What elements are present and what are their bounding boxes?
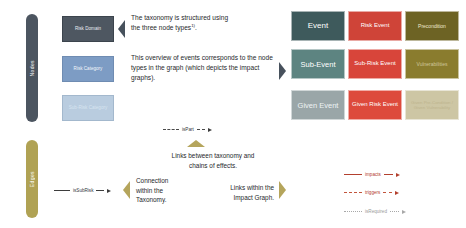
edge-sample-is-part: isPart	[163, 127, 212, 132]
node-given-precondition-label: Given Pre-Condition / Given Vulnerabilit…	[408, 100, 456, 111]
caption-links-impact-line2: Impact Graph.	[234, 194, 275, 201]
chevron-up-gold-icon	[187, 140, 205, 147]
caption-links-between-line2: chains of effects.	[189, 162, 237, 169]
caption-links-between-line1: Links between taxonomy and	[172, 152, 255, 159]
node-risk-event[interactable]: Risk Event	[348, 11, 402, 41]
edge-is-part-line-left	[163, 129, 179, 130]
node-vulnerabilities[interactable]: Vulnerabilities	[405, 49, 459, 79]
caption-links-between-taxonomy: Links between taxonomy and chains of eff…	[128, 151, 298, 170]
legend-row-impacts: impacts	[344, 172, 400, 177]
legend-impacts-label: impacts	[365, 172, 381, 177]
chevron-left-to-taxonomy-icon	[118, 20, 125, 38]
node-precondition-label: Precondition	[418, 23, 446, 29]
node-risk-event-label: Risk Event	[361, 22, 390, 29]
annotation-paragraph-1-line2: the three node types	[131, 24, 191, 31]
edge-is-part-line-right	[197, 129, 205, 130]
edge-is-sub-risk-line-left	[54, 190, 70, 191]
rail-edges-label: Edges	[29, 171, 35, 187]
node-risk-domain-label: Risk Domain	[75, 26, 101, 32]
diagram-canvas: Nodes Edges Risk Domain Risk Category Su…	[0, 0, 466, 228]
node-sub-event-label: Sub-Event	[300, 60, 335, 69]
legend-impacts-arrowhead-icon	[396, 173, 400, 177]
annotation-paragraph-1: The taxonomy is structured using the thr…	[131, 13, 281, 34]
node-sub-risk-category[interactable]: Sub-Risk Category	[62, 95, 114, 121]
caption-connection-line1: Connection	[136, 177, 168, 184]
caption-connection-line3: Taxonomy.	[136, 196, 166, 203]
chevron-right-gold-icon	[279, 181, 286, 199]
node-given-event-label: Given Event	[298, 101, 339, 110]
node-event-label: Event	[308, 21, 328, 31]
node-given-risk-event[interactable]: Given Risk Event	[348, 90, 402, 120]
rail-edges: Edges	[26, 140, 38, 218]
legend-triggers-line-left	[344, 192, 362, 193]
annotation-paragraph-1-line1: The taxonomy is structured using	[131, 14, 228, 21]
legend-is-required-line-left	[344, 211, 362, 212]
caption-links-impact-line1: Links within the	[230, 184, 274, 191]
annotation-paragraph-2: This overview of events corresponds to t…	[131, 53, 275, 84]
legend-is-required-line-right	[390, 211, 399, 212]
node-sub-event[interactable]: Sub-Event	[291, 49, 345, 79]
legend-triggers-label: triggers	[365, 190, 380, 195]
node-risk-category-label: Risk Category	[74, 66, 103, 72]
node-risk-domain[interactable]: Risk Domain	[62, 16, 114, 42]
node-risk-category[interactable]: Risk Category	[62, 56, 114, 82]
node-given-precondition[interactable]: Given Pre-Condition / Given Vulnerabilit…	[405, 90, 459, 120]
node-event[interactable]: Event	[291, 11, 345, 41]
legend-triggers-arrowhead-icon	[395, 191, 399, 195]
chevron-right-to-events-icon	[279, 62, 286, 80]
node-precondition[interactable]: Precondition	[405, 11, 459, 41]
legend-triggers-line-right	[383, 192, 392, 193]
node-given-event[interactable]: Given Event	[291, 90, 345, 120]
legend-impacts-line-right	[384, 174, 393, 175]
node-sub-risk-event[interactable]: Sub-Risk Event	[348, 49, 402, 79]
legend-row-is-required: isRequired	[344, 209, 406, 214]
edge-is-part-arrowhead-icon	[208, 128, 212, 132]
rail-nodes-label: Nodes	[29, 60, 35, 76]
caption-connection-within-taxonomy: Connection within the Taxonomy.	[136, 176, 198, 205]
node-vulnerabilities-label: Vulnerabilities	[417, 61, 448, 67]
legend-is-required-label: isRequired	[365, 209, 387, 214]
caption-links-within-impact-graph: Links within the Impact Graph.	[198, 183, 274, 202]
edge-sample-is-sub-risk: isSubRisk	[54, 188, 111, 193]
caption-connection-line2: within the	[136, 187, 163, 194]
edge-is-sub-risk-line-right	[96, 190, 104, 191]
edge-is-sub-risk-label: isSubRisk	[73, 188, 93, 193]
legend-row-triggers: triggers	[344, 190, 399, 195]
node-given-risk-event-label: Given Risk Event	[352, 101, 398, 108]
edge-is-part-label: isPart	[182, 127, 194, 132]
legend-is-required-arrowhead-icon	[402, 210, 406, 214]
rail-nodes: Nodes	[26, 14, 38, 122]
annotation-paragraph-1-tail: .	[195, 24, 197, 31]
edge-is-sub-risk-arrowhead-icon	[107, 189, 111, 193]
chevron-left-gold-icon	[123, 181, 130, 199]
node-sub-risk-event-label: Sub-Risk Event	[354, 60, 395, 67]
node-sub-risk-category-label: Sub-Risk Category	[69, 105, 108, 111]
legend-impacts-line-left	[344, 174, 362, 175]
